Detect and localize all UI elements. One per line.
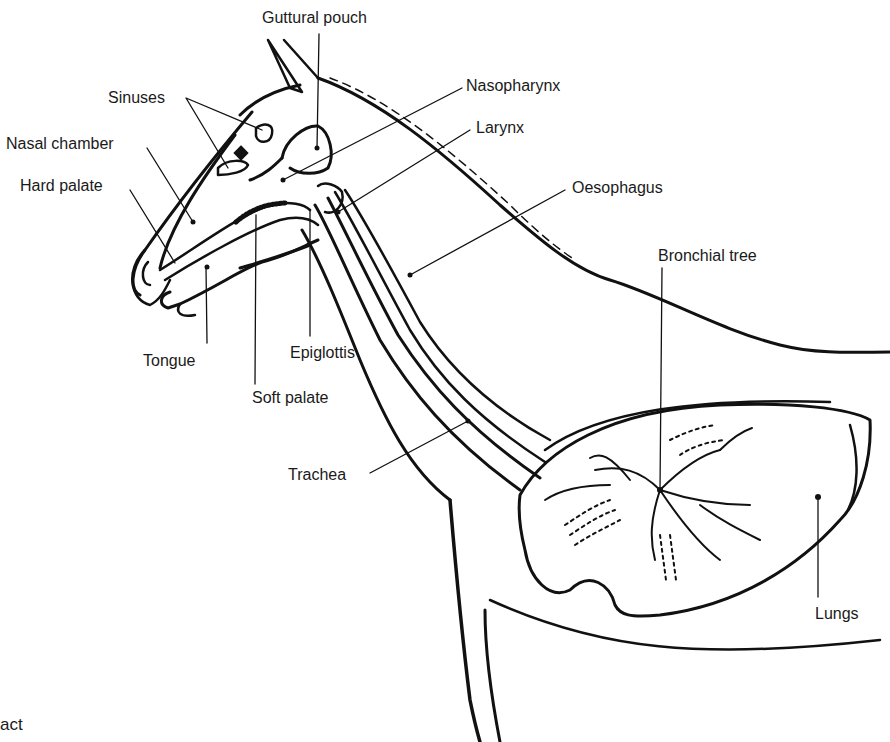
bronchial-branches — [545, 428, 760, 560]
label-lungs: Lungs — [815, 606, 859, 622]
horse-respiratory-illustration — [0, 0, 890, 742]
face-top — [133, 112, 252, 295]
guttural-pouch-shape — [282, 126, 331, 173]
neck-crest — [318, 78, 890, 352]
label-trachea: Trachea — [288, 467, 346, 483]
skull-base — [250, 158, 282, 180]
label-nasal-chamber: Nasal chamber — [6, 136, 114, 152]
throat-front — [302, 230, 450, 500]
hard-palate-ridges — [236, 203, 285, 222]
label-hard-palate: Hard palate — [20, 178, 103, 194]
label-epiglottis: Epiglottis — [290, 345, 355, 361]
sinus-lower — [218, 161, 248, 175]
shoulder — [485, 610, 500, 742]
mane-dashes — [330, 78, 575, 260]
label-tongue: Tongue — [143, 353, 196, 369]
label-sinuses: Sinuses — [108, 90, 165, 106]
figure-caption-fragment: act — [0, 715, 23, 735]
oesophagus-2 — [345, 190, 550, 440]
label-guttural-pouch: Guttural pouch — [262, 10, 367, 26]
jaw-curve — [240, 245, 310, 268]
eye — [234, 146, 248, 160]
chin — [178, 304, 195, 316]
chest-front — [450, 500, 480, 742]
sinus-upper — [256, 125, 272, 142]
alveoli-dots — [565, 425, 725, 580]
label-larynx: Larynx — [476, 120, 524, 136]
leader-dots — [191, 146, 822, 501]
nostril — [143, 262, 150, 285]
label-nasopharynx: Nasopharynx — [466, 78, 560, 94]
label-oesophagus: Oesophagus — [572, 180, 663, 196]
label-bronchial-tree: Bronchial tree — [658, 248, 757, 264]
label-soft-palate: Soft palate — [252, 390, 329, 406]
leader-lines — [130, 34, 818, 597]
nasal-line — [160, 135, 235, 268]
